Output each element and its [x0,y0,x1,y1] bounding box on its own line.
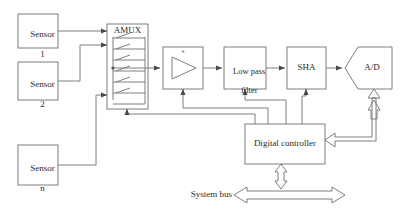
sha-box [287,47,326,89]
block-diagram-canvas: Sensor 1 Sensor 2 Sensor n AMUX + Low pa… [0,0,405,219]
wire-sensorn-amux [58,95,107,165]
sensor-n-box [18,145,58,185]
lowpass-box [224,47,266,89]
adc-shape [345,47,392,89]
system-bus-arrow [234,187,345,203]
amux-switch-rows [113,33,145,93]
controller-bus-connector [275,164,287,189]
controller-box [245,124,325,164]
diagram-vector-layer [0,0,405,219]
sensor-1-box [18,14,58,48]
adc-to-controller-bus [325,89,380,147]
adc-start-arrow [368,100,380,119]
control-line-to-sha [302,89,306,124]
wire-sensor2-amux [58,45,107,81]
control-line-to-amux [127,109,255,124]
sensor-2-box [18,62,58,100]
amplifier-triangle [172,57,196,79]
control-line-to-lowpass [245,89,286,124]
